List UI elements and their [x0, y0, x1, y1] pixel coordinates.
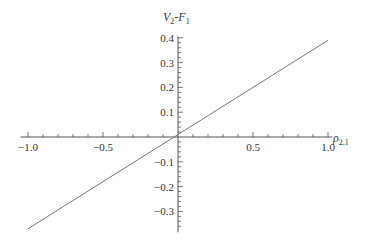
y-tick-label: 0.3: [160, 57, 174, 69]
y-tick-label: 0.1: [160, 106, 174, 118]
y-tick-label: −0.3: [154, 205, 174, 217]
y-tick-label: 0.2: [160, 81, 174, 93]
x-axis-label: ρ2,1: [332, 131, 349, 147]
y-axis-label: V2-F1: [163, 10, 190, 26]
x-tick-label: 0.5: [246, 141, 260, 153]
y-tick-label: 0.4: [160, 32, 174, 44]
y-tick-label: −0.2: [154, 181, 174, 193]
y-tick-label: −0.1: [154, 156, 174, 168]
x-tick-label: −0.5: [93, 141, 113, 153]
line-chart: −1.0−0.50.51.00.40.30.20.1−0.1−0.2−0.3ρ2…: [0, 0, 375, 245]
x-tick-label: −1.0: [18, 141, 38, 153]
